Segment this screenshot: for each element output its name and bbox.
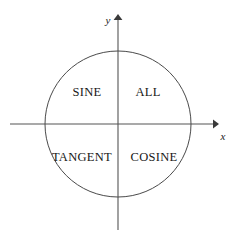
y-axis-label: y bbox=[105, 14, 111, 26]
y-axis-arrowhead-icon bbox=[114, 14, 123, 20]
quadrant-label-sine: SINE bbox=[73, 85, 102, 99]
x-axis-arrowhead-icon bbox=[213, 120, 219, 129]
diagram-canvas: x y SINE ALL TANGENT COSINE bbox=[0, 0, 238, 238]
quadrant-label-all: ALL bbox=[135, 85, 160, 99]
x-axis-label: x bbox=[220, 130, 226, 142]
quadrant-label-tangent: TANGENT bbox=[52, 150, 112, 164]
cast-quadrant-diagram: x y SINE ALL TANGENT COSINE bbox=[0, 0, 238, 238]
quadrant-label-cosine: COSINE bbox=[131, 150, 178, 164]
